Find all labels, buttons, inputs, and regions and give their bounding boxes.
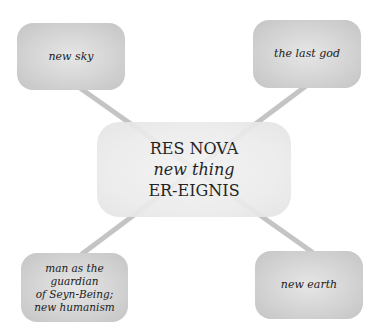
node-the-last-god: the last god: [253, 20, 361, 88]
node-new-earth: new earth: [255, 251, 363, 319]
node-label: new earth: [281, 278, 337, 292]
node-new-sky: new sky: [17, 23, 125, 90]
node-label-line: man as the guardian: [21, 262, 128, 288]
node-res-nova: RES NOVA new thing ER-EIGNIS: [97, 122, 291, 217]
center-title: RES NOVA: [150, 138, 239, 159]
node-label: new sky: [48, 50, 93, 64]
node-label: the last god: [274, 47, 340, 61]
node-label-line: new humanism: [34, 301, 115, 314]
center-subtitle: new thing: [154, 159, 235, 180]
node-new-humanism: man as the guardian of Seyn-Being; new h…: [21, 253, 128, 322]
node-label-line: of Seyn-Being;: [36, 288, 114, 301]
center-ereignis: ER-EIGNIS: [148, 180, 239, 201]
